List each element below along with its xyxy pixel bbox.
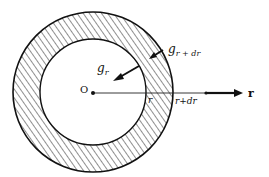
axis-r-label: r <box>248 87 254 100</box>
shell-diagram: O gr gr + dr r r+dr r <box>0 0 269 177</box>
outer-radius-label: r+dr <box>175 96 198 106</box>
center-dot <box>91 91 95 95</box>
center-label: O <box>80 84 88 95</box>
inner-radius-label: r <box>148 95 153 105</box>
